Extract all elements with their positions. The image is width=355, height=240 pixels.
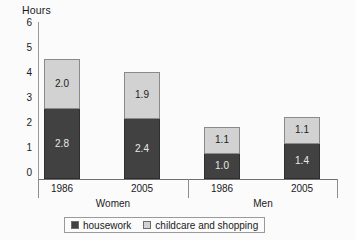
y-tick-1: 1 <box>16 142 32 153</box>
group-separator-right <box>337 179 338 198</box>
segment-childcare: 1.1 <box>204 127 240 155</box>
y-tick-4: 4 <box>16 67 32 78</box>
segment-housework: 2.4 <box>124 119 160 179</box>
bar-men-2005: 1.1 1.4 <box>284 117 320 180</box>
x-tick-women-1986: 1986 <box>32 183 92 194</box>
legend-item-housework[interactable]: housework <box>71 220 131 231</box>
segment-housework: 2.8 <box>44 109 80 179</box>
y-tick-3: 3 <box>16 92 32 103</box>
group-label-women: Women <box>68 198 158 209</box>
plot-area: 2.0 2.8 1.9 2.4 1.1 1.0 1.1 1.4 <box>38 29 338 179</box>
segment-housework: 1.0 <box>204 154 240 179</box>
segment-childcare: 2.0 <box>44 59 80 109</box>
y-axis-title: Hours <box>22 4 51 16</box>
x-tick-men-1986: 1986 <box>192 183 252 194</box>
segment-childcare: 1.1 <box>284 117 320 145</box>
group-separator-left <box>38 179 39 198</box>
legend-swatch-icon-childcare <box>143 221 151 229</box>
x-tick-men-2005: 2005 <box>272 183 332 194</box>
chart-legend: housework childcare and shopping <box>64 217 265 233</box>
legend-item-childcare-and-shopping[interactable]: childcare and shopping <box>143 220 258 231</box>
bar-women-1986: 2.0 2.8 <box>44 59 80 179</box>
legend-swatch-icon-housework <box>71 221 79 229</box>
group-separator-middle <box>188 179 189 198</box>
segment-housework: 1.4 <box>284 144 320 179</box>
group-label-men: Men <box>218 198 308 209</box>
bar-women-2005: 1.9 2.4 <box>124 72 160 180</box>
y-tick-2: 2 <box>16 117 32 128</box>
stacked-bar-chart: Hours 6 5 4 3 2 1 0 2.0 2.8 1.9 2.4 1.1 … <box>0 0 355 240</box>
legend-label-childcare-and-shopping: childcare and shopping <box>155 220 258 231</box>
bar-men-1986: 1.1 1.0 <box>204 127 240 180</box>
x-tick-women-2005: 2005 <box>112 183 172 194</box>
y-tick-6: 6 <box>16 17 32 28</box>
legend-label-housework: housework <box>83 220 131 231</box>
y-tick-0: 0 <box>16 167 32 178</box>
segment-childcare: 1.9 <box>124 72 160 120</box>
y-tick-5: 5 <box>16 42 32 53</box>
